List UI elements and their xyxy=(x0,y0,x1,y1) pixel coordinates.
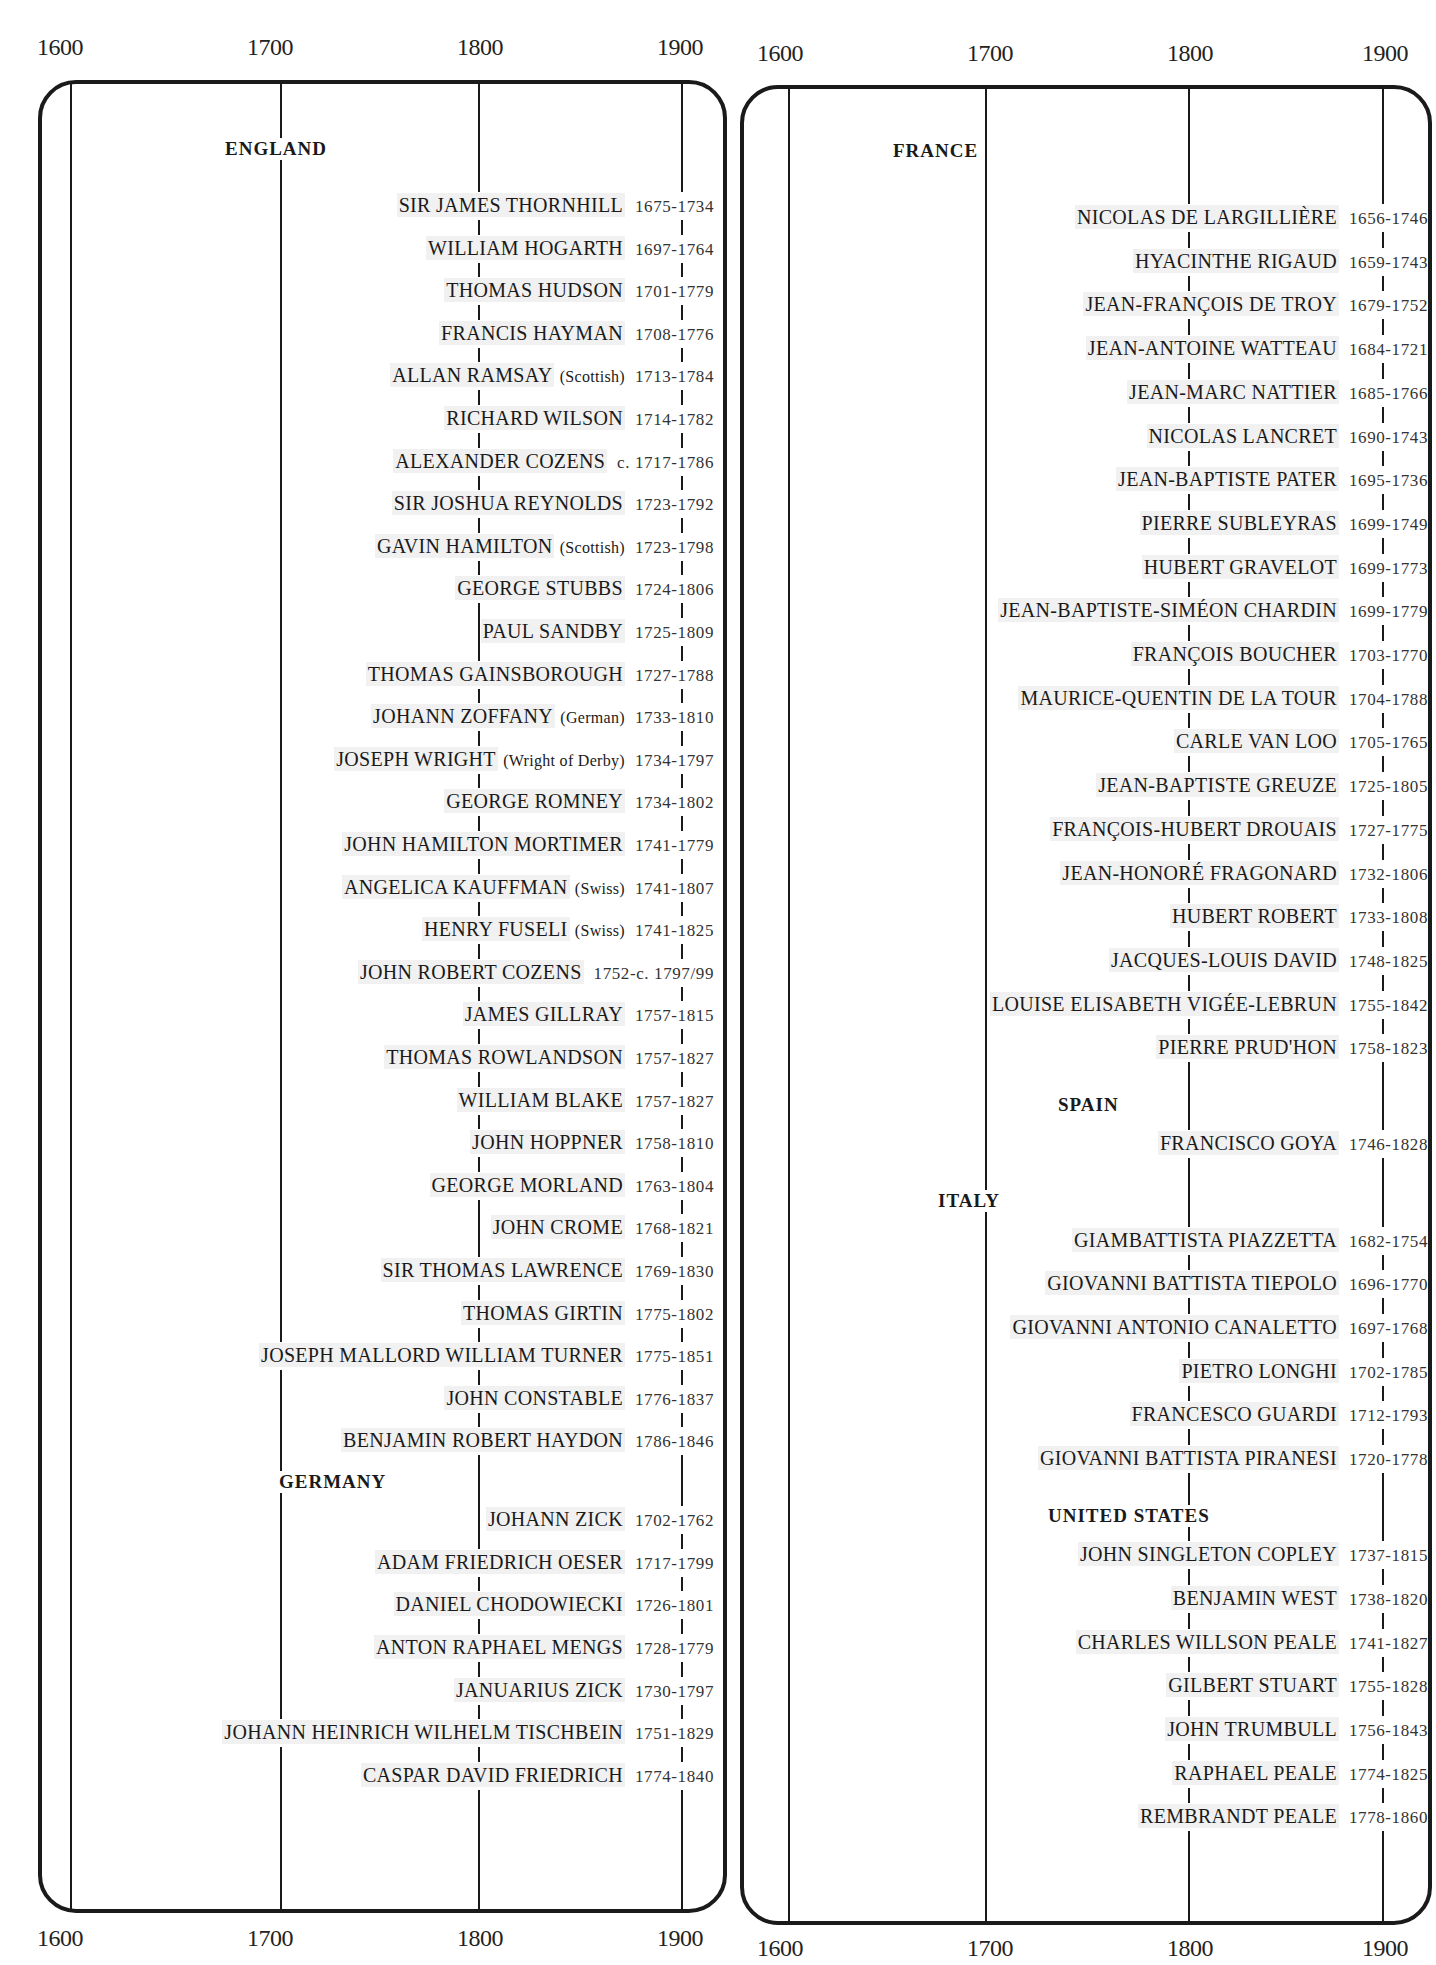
axis-tick-bottom-1800: 1800 xyxy=(1167,1935,1213,1962)
artist-lifespan: 1775-1802 xyxy=(635,1305,714,1324)
country-heading-italy: ITALY xyxy=(935,1190,1003,1212)
artist-row: GEORGE MORLAND1763-1804 xyxy=(430,1172,714,1200)
artist-row: THOMAS GIRTIN1775-1802 xyxy=(461,1300,714,1328)
artist-lifespan: 1746-1828 xyxy=(1349,1135,1428,1154)
artist-row: JOHN TRUMBULL1756-1843 xyxy=(1165,1716,1428,1744)
artist-lifespan: 1705-1765 xyxy=(1349,733,1428,752)
artist-name: WILLIAM BLAKE xyxy=(457,1088,625,1112)
country-heading-united-states: UNITED STATES xyxy=(1045,1505,1213,1527)
artist-name: JEAN-BAPTISTE PATER xyxy=(1116,467,1339,491)
artist-name: RAPHAEL PEALE xyxy=(1172,1761,1339,1785)
country-heading-spain: SPAIN xyxy=(1055,1094,1122,1116)
axis-tick-top-1700: 1700 xyxy=(247,34,293,61)
artist-name: JACQUES-LOUIS DAVID xyxy=(1109,948,1339,972)
artist-lifespan: 1774-1825 xyxy=(1349,1765,1428,1784)
artist-name: ADAM FRIEDRICH OESER xyxy=(375,1550,625,1574)
artist-name: JOHN SINGLETON COPLEY xyxy=(1078,1542,1339,1566)
axis-tick-bottom-1700: 1700 xyxy=(967,1935,1013,1962)
artist-lifespan: 1730-1797 xyxy=(635,1682,714,1701)
artist-name: FRANÇOIS-HUBERT DROUAIS xyxy=(1050,817,1339,841)
artist-nationality-note: (Scottish) xyxy=(560,539,625,556)
artist-name: LOUISE ELISABETH VIGÉE-LEBRUN xyxy=(990,992,1339,1016)
artist-row: JOHN ROBERT COZENS1752-c. 1797/99 xyxy=(358,959,714,987)
artist-row: HUBERT GRAVELOT1699-1773 xyxy=(1142,554,1428,582)
artist-name: JEAN-ANTOINE WATTEAU xyxy=(1086,336,1339,360)
artist-lifespan: 1679-1752 xyxy=(1349,296,1428,315)
artist-lifespan: 1703-1770 xyxy=(1349,646,1428,665)
artist-row: GAVIN HAMILTON (Scottish)1723-1798 xyxy=(375,533,714,561)
century-gridline-1600 xyxy=(788,87,790,1923)
artist-name: JOSEPH WRIGHT xyxy=(334,747,498,771)
artist-nationality-note: (German) xyxy=(560,709,625,726)
artist-row: FRANCESCO GUARDI1712-1793 xyxy=(1130,1401,1428,1429)
artist-lifespan: 1737-1815 xyxy=(1349,1546,1428,1565)
artist-name: HYACINTHE RIGAUD xyxy=(1133,249,1339,273)
artist-lifespan: 1757-1827 xyxy=(635,1092,714,1111)
artist-lifespan: 1776-1837 xyxy=(635,1390,714,1409)
artist-nationality-note: (Wright of Derby) xyxy=(503,752,625,769)
artist-row: JOHN HAMILTON MORTIMER1741-1779 xyxy=(342,831,714,859)
artist-row: JAMES GILLRAY1757-1815 xyxy=(463,1001,714,1029)
artist-name: THOMAS HUDSON xyxy=(444,278,625,302)
artist-row: JOHANN HEINRICH WILHELM TISCHBEIN1751-18… xyxy=(222,1719,714,1747)
artist-row: ALLAN RAMSAY (Scottish)1713-1784 xyxy=(390,362,714,390)
artist-nationality-note: (Swiss) xyxy=(575,880,625,897)
artist-lifespan: 1699-1773 xyxy=(1349,559,1428,578)
artist-name: ANTON RAPHAEL MENGS xyxy=(374,1635,625,1659)
artist-name: JOHN HAMILTON MORTIMER xyxy=(342,832,625,856)
artist-lifespan: 1720-1778 xyxy=(1349,1450,1428,1469)
artist-name: GEORGE ROMNEY xyxy=(444,789,625,813)
artist-lifespan: 1732-1806 xyxy=(1349,865,1428,884)
artist-lifespan: 1757-1815 xyxy=(635,1006,714,1025)
artist-row: JEAN-FRANÇOIS DE TROY1679-1752 xyxy=(1083,291,1428,319)
artist-row: MAURICE-QUENTIN DE LA TOUR1704-1788 xyxy=(1018,685,1428,713)
artist-name: ANGELICA KAUFFMAN xyxy=(342,875,569,899)
artist-lifespan: 1699-1749 xyxy=(1349,515,1428,534)
artist-row: REMBRANDT PEALE1778-1860 xyxy=(1138,1803,1428,1831)
century-gridline-1700 xyxy=(985,87,987,1923)
artist-row: PIETRO LONGHI1702-1785 xyxy=(1179,1358,1428,1386)
artist-name: RICHARD WILSON xyxy=(444,406,625,430)
artist-row: JOSEPH MALLORD WILLIAM TURNER1775-1851 xyxy=(259,1342,714,1370)
artist-lifespan: 1751-1829 xyxy=(635,1724,714,1743)
artist-row: GIOVANNI ANTONIO CANALETTO1697-1768 xyxy=(1010,1314,1428,1342)
artist-name: BENJAMIN ROBERT HAYDON xyxy=(341,1428,625,1452)
axis-tick-bottom-1900: 1900 xyxy=(1362,1935,1408,1962)
artist-lifespan: 1734-1797 xyxy=(635,751,714,770)
century-gridline-1600 xyxy=(70,82,72,1911)
artist-lifespan: 1717-1799 xyxy=(635,1554,714,1573)
artist-lifespan: 1684-1721 xyxy=(1349,340,1428,359)
artist-lifespan: 1763-1804 xyxy=(635,1177,714,1196)
artist-row: ANGELICA KAUFFMAN (Swiss)1741-1807 xyxy=(342,874,714,902)
artist-name: THOMAS ROWLANDSON xyxy=(384,1045,625,1069)
artist-lifespan: 1775-1851 xyxy=(635,1347,714,1366)
artist-row: JOHN HOPPNER1758-1810 xyxy=(470,1129,714,1157)
artist-lifespan: 1697-1764 xyxy=(635,240,714,259)
artist-row: GIOVANNI BATTISTA TIEPOLO1696-1770 xyxy=(1045,1270,1428,1298)
artist-row: GILBERT STUART1755-1828 xyxy=(1166,1672,1428,1700)
artist-name: ALLAN RAMSAY xyxy=(390,363,554,387)
artist-row: JOHN SINGLETON COPLEY1737-1815 xyxy=(1078,1541,1428,1569)
artist-lifespan: 1727-1788 xyxy=(635,666,714,685)
axis-tick-bottom-1700: 1700 xyxy=(247,1925,293,1952)
artist-lifespan: 1690-1743 xyxy=(1349,428,1428,447)
artist-lifespan: 1725-1809 xyxy=(635,623,714,642)
artist-name: JOHN TRUMBULL xyxy=(1165,1717,1339,1741)
artist-name: FRANCIS HAYMAN xyxy=(439,321,625,345)
artist-lifespan: 1723-1798 xyxy=(635,538,714,557)
country-heading-england: ENGLAND xyxy=(222,138,330,160)
artist-lifespan: 1734-1802 xyxy=(635,793,714,812)
artist-name: JOHN CROME xyxy=(491,1215,625,1239)
artist-name: ALEXANDER COZENS xyxy=(393,449,607,473)
artist-row: FRANCIS HAYMAN1708-1776 xyxy=(439,320,714,348)
artist-row: JACQUES-LOUIS DAVID1748-1825 xyxy=(1109,947,1428,975)
artist-name: FRANÇOIS BOUCHER xyxy=(1131,642,1339,666)
artist-name: HUBERT GRAVELOT xyxy=(1142,555,1339,579)
artist-row: FRANCISCO GOYA1746-1828 xyxy=(1158,1130,1428,1158)
artist-lifespan: 1697-1768 xyxy=(1349,1319,1428,1338)
artist-name: JEAN-BAPTISTE GREUZE xyxy=(1096,773,1339,797)
artist-name: FRANCISCO GOYA xyxy=(1158,1131,1339,1155)
artist-row: HUBERT ROBERT1733-1808 xyxy=(1170,903,1428,931)
artist-row: SIR THOMAS LAWRENCE1769-1830 xyxy=(381,1257,714,1285)
axis-tick-bottom-1800: 1800 xyxy=(457,1925,503,1952)
